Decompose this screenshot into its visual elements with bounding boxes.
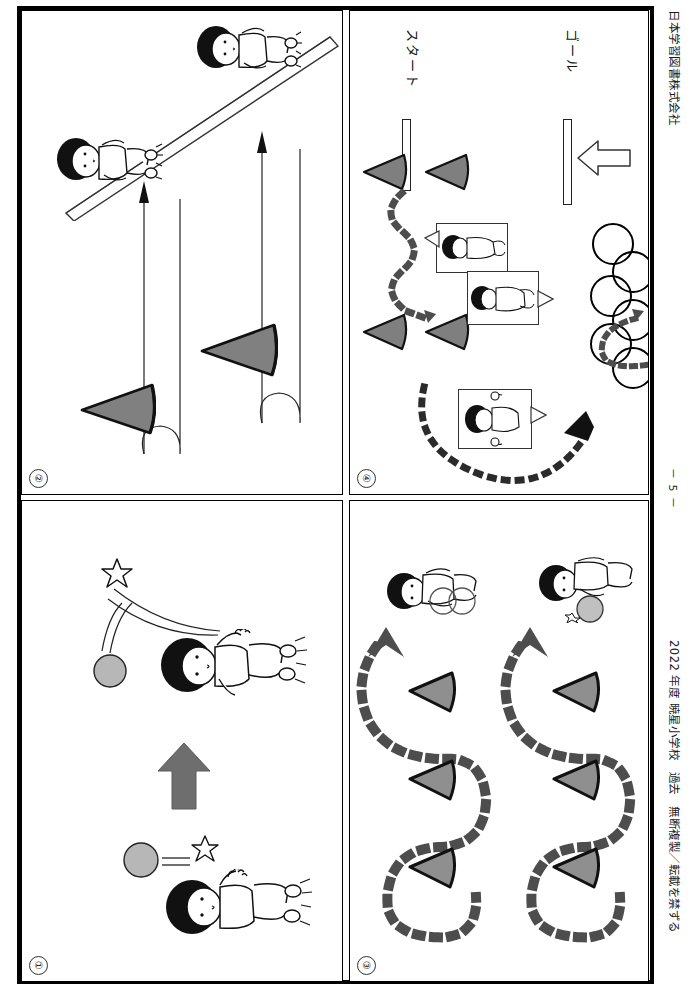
child-figure-ball: [538, 553, 642, 623]
child-figure-throw: [162, 869, 312, 941]
panel-3: ③: [349, 500, 649, 982]
label-start: スタート: [404, 29, 423, 89]
page-right-rule: [650, 6, 654, 984]
cone-lane-b-2: [550, 757, 602, 803]
label-goal: ゴール: [564, 29, 583, 74]
cone-lane-b-1: [550, 669, 602, 715]
cone-lane-a-2: [406, 757, 458, 803]
child-figure-beam-1: [192, 19, 302, 97]
run-track-2: [254, 101, 326, 431]
publisher-name: 日本学習図書株式会社: [667, 10, 683, 125]
ball-lower: [122, 841, 160, 883]
goal-line-bar: [563, 119, 572, 205]
cone-lane-a-3: [406, 845, 458, 891]
inset-photo-roll-tail: [536, 289, 554, 309]
copyright-notice: 2022 年度 暁星小学校 過去 無断複製／転載を禁ずる: [667, 640, 683, 933]
panel-1-number-text: ①: [33, 961, 44, 970]
cone-lane-b-3: [550, 845, 602, 891]
return-dotted-path: [410, 383, 600, 488]
cone-lane-a-1: [406, 669, 458, 715]
panel-4-number: ④: [357, 469, 376, 488]
inset-photo-roll: [467, 271, 539, 325]
ball-upper: [92, 653, 126, 693]
hoop-dotted-path: [582, 299, 649, 379]
page-number: － 5 －: [666, 468, 682, 509]
cone-panel4-2: [422, 151, 470, 193]
panel-2: ②: [21, 10, 343, 495]
panel-4: ④ スタート ゴール: [349, 10, 649, 495]
panel-4-number-text: ④: [361, 474, 372, 483]
panel-1-number: ①: [29, 956, 48, 975]
cone-panel4-1: [360, 151, 408, 193]
goal-arrow-outline: [574, 133, 632, 183]
child-figure-catch: [157, 629, 307, 701]
inset-photo-crawl-tail: [424, 229, 440, 249]
panel-2-number: ②: [29, 469, 48, 488]
panel-1: ①: [21, 500, 343, 982]
cone-panel2-1: [74, 379, 156, 437]
panel-2-number-text: ②: [33, 474, 44, 483]
direction-arrow-panel1: [156, 741, 212, 811]
inset-photo-crawl: [436, 223, 508, 273]
cone-panel2-2: [194, 319, 278, 379]
worksheet-page: 運動2 日本学習図書株式会社 － 5 － 2022 年度 暁星小学校 過去 無断…: [0, 0, 691, 990]
child-figure-hoop: [386, 561, 482, 619]
star-sparkle-2: [190, 834, 220, 864]
